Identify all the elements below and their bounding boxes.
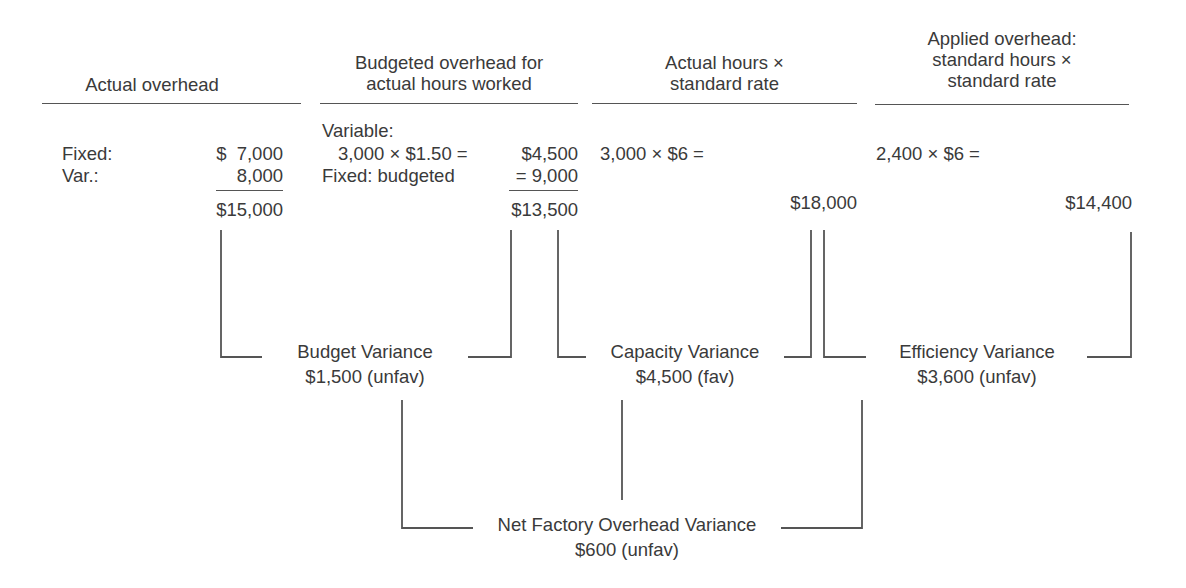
variance-name: Efficiency Variance [866, 341, 1088, 362]
capacity-variance: Capacity Variance $4,500 (fav) [584, 341, 786, 387]
budget-bracket-right [468, 230, 511, 357]
variance-amount: $4,500 (fav) [584, 366, 786, 387]
variance-amount: $3,600 (unfav) [866, 366, 1088, 387]
connector-lines [0, 0, 1186, 588]
efficiency-variance: Efficiency Variance $3,600 (unfav) [866, 341, 1088, 387]
variance-name: Net Factory Overhead Variance [476, 514, 778, 535]
variance-amount: $600 (unfav) [476, 539, 778, 560]
variance-amount: $1,500 (unfav) [265, 366, 465, 387]
efficiency-bracket-right [1087, 232, 1131, 357]
capacity-bracket-right [784, 230, 811, 357]
net-factory-overhead-variance: Net Factory Overhead Variance $600 (unfa… [476, 514, 778, 560]
variance-name: Capacity Variance [584, 341, 786, 362]
variance-name: Budget Variance [265, 341, 465, 362]
budget-variance: Budget Variance $1,500 (unfav) [265, 341, 465, 387]
efficiency-bracket-left [824, 230, 866, 357]
budget-bracket-left [221, 230, 262, 357]
capacity-bracket-left [558, 230, 586, 357]
net-bracket-right [781, 400, 862, 528]
net-bracket-left [402, 400, 473, 528]
